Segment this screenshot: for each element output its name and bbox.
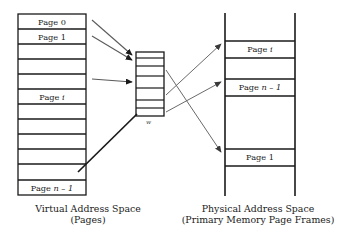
arrow-pagei-to-pagetable — [92, 79, 132, 82]
virtual-space-caption-line1: Virtual Address Space — [0, 203, 176, 214]
virtual-page-label-italic: n – 1 — [53, 183, 73, 193]
virtual-page-label: Page 0 — [18, 18, 86, 26]
physical-frame-label-text: Page 1 — [246, 152, 274, 162]
virtual-page-label-text: Page 1 — [38, 32, 66, 42]
physical-frame-label-text: Page — [247, 44, 270, 54]
virtual-page-label-text: Page — [31, 183, 54, 193]
virtual-space-caption: Virtual Address Space (Pages) — [0, 203, 176, 226]
arrow-pte-to-frame-pagei — [166, 44, 221, 95]
diagram-canvas: Page 0 Page 1 Page i Page n – 1 w Page i… — [0, 0, 338, 244]
arrow-pte-to-frame-page1 — [166, 70, 221, 152]
virtual-page-label-italic: i — [62, 92, 65, 102]
physical-address-space-column — [225, 13, 295, 196]
physical-frame-label: Page n – 1 — [225, 83, 295, 91]
physical-frame-label-italic: i — [270, 44, 273, 54]
arrow-page0-to-pagetable — [92, 20, 132, 55]
physical-frame-label: Page 1 — [225, 153, 295, 161]
virtual-page-label-text: Page — [39, 92, 62, 102]
arrow-pte-to-frame-pagen1 — [166, 82, 221, 112]
physical-space-caption-line2: (Primary Memory Page Frames) — [178, 214, 338, 225]
physical-frame-label-text: Page — [239, 82, 262, 92]
physical-space-caption-line1: Physical Address Space — [178, 203, 338, 214]
page-table-note: w — [146, 119, 151, 125]
virtual-space-caption-line2: (Pages) — [0, 214, 176, 225]
virtual-page-label: Page n – 1 — [18, 184, 86, 192]
physical-space-caption: Physical Address Space (Primary Memory P… — [178, 203, 338, 226]
virtual-page-label: Page 1 — [18, 33, 86, 41]
page-table-box — [136, 52, 164, 116]
virtual-to-pagetable-arrows — [78, 20, 137, 172]
virtual-page-label: Page i — [18, 93, 86, 101]
arrow-page1-to-pagetable — [92, 36, 132, 60]
virtual-page-label-text: Page 0 — [38, 17, 66, 27]
pagetable-to-physical-arrows — [166, 44, 221, 152]
line-pagen1-to-pagetable — [78, 114, 137, 172]
physical-frame-label-italic: n – 1 — [261, 82, 281, 92]
physical-frame-label: Page i — [225, 45, 295, 53]
